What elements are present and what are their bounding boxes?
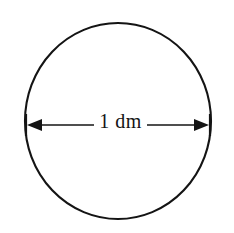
- dimension-label: 1 dm: [94, 109, 147, 133]
- figure-container: 1 dm: [0, 0, 234, 233]
- arrowhead-left-icon: [27, 119, 42, 131]
- arrowhead-right-icon: [194, 119, 209, 131]
